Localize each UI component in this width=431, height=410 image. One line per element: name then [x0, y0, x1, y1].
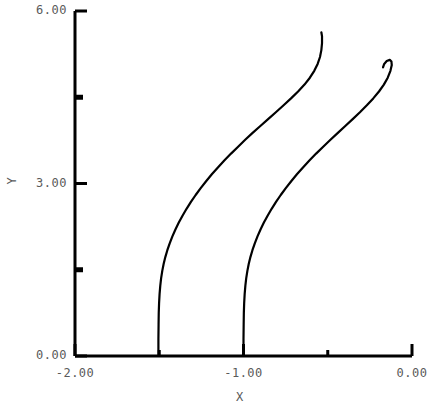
x-tick-label: 0.00 — [380, 366, 431, 380]
y-tick-label: 6.00 — [1, 3, 67, 17]
data-series-group — [158, 32, 391, 356]
x-tick-label: -2.00 — [43, 366, 107, 380]
x-tick-label: -1.00 — [212, 366, 276, 380]
x-axis-title: X — [236, 390, 243, 404]
data-line-curve-1 — [158, 32, 322, 356]
y-axis-ticks — [75, 11, 87, 356]
y-axis-title: Y — [5, 177, 19, 184]
y-tick-label: 0.00 — [1, 348, 67, 362]
data-line-curve-2 — [244, 60, 392, 356]
